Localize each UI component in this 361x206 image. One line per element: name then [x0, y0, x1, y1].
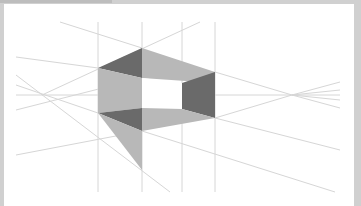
vp-right-line-a: [60, 22, 142, 48]
vp-right-line-b: [215, 72, 292, 95]
vp-right-line-i: [215, 118, 340, 150]
vp-left-line-f: [16, 85, 98, 113]
vp-right-line-g: [292, 90, 340, 95]
vp-right-line-d: [142, 131, 335, 192]
vp-left-line-a: [16, 57, 98, 68]
inner-opening: [142, 78, 182, 109]
vp-right-line-f: [292, 95, 340, 108]
vp-right-line-h: [292, 95, 340, 100]
box-faces: [98, 48, 215, 170]
perspective-diagram: [0, 0, 361, 206]
vp-right-line-e: [292, 82, 340, 95]
vp-right-line-c: [215, 95, 292, 118]
